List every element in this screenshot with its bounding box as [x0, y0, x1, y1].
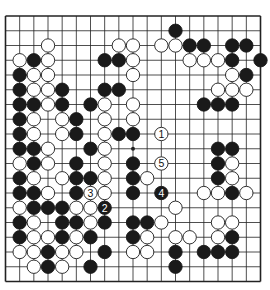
white-stone[interactable]	[27, 127, 40, 140]
white-stone[interactable]	[225, 68, 238, 81]
black-stone[interactable]	[112, 54, 125, 67]
black-stone[interactable]	[211, 172, 224, 185]
black-stone[interactable]	[27, 142, 40, 155]
black-stone[interactable]	[225, 186, 238, 199]
white-stone[interactable]	[98, 157, 111, 170]
white-stone[interactable]	[55, 260, 68, 273]
black-stone[interactable]	[13, 186, 26, 199]
white-stone[interactable]	[55, 113, 68, 126]
white-stone[interactable]	[41, 157, 54, 170]
black-stone[interactable]	[27, 98, 40, 111]
white-stone[interactable]	[126, 54, 139, 67]
black-stone[interactable]	[225, 245, 238, 258]
black-stone[interactable]	[13, 68, 26, 81]
black-stone[interactable]	[27, 186, 40, 199]
black-stone[interactable]	[84, 98, 97, 111]
black-stone[interactable]	[254, 54, 267, 67]
white-stone[interactable]	[169, 201, 182, 214]
black-stone[interactable]	[55, 201, 68, 214]
black-stone[interactable]	[211, 142, 224, 155]
white-stone[interactable]	[13, 201, 26, 214]
white-stone[interactable]	[41, 39, 54, 52]
black-stone[interactable]	[197, 98, 210, 111]
black-stone[interactable]	[183, 39, 196, 52]
black-stone[interactable]	[84, 231, 97, 244]
black-stone[interactable]	[225, 142, 238, 155]
white-stone[interactable]	[70, 201, 83, 214]
black-stone[interactable]	[126, 127, 139, 140]
white-stone[interactable]	[211, 216, 224, 229]
black-stone[interactable]	[112, 127, 125, 140]
go-board[interactable]: 15342	[0, 0, 270, 290]
white-stone[interactable]	[211, 83, 224, 96]
white-stone[interactable]	[70, 245, 83, 258]
white-stone[interactable]	[240, 186, 253, 199]
black-stone[interactable]	[169, 24, 182, 37]
white-stone[interactable]	[41, 54, 54, 67]
black-stone[interactable]	[225, 98, 238, 111]
white-stone[interactable]	[126, 245, 139, 258]
black-stone[interactable]	[126, 157, 139, 170]
black-stone[interactable]	[140, 216, 153, 229]
numbered-stone-4[interactable]: 4	[155, 186, 168, 199]
white-stone[interactable]	[41, 186, 54, 199]
white-stone[interactable]	[155, 39, 168, 52]
black-stone[interactable]	[41, 245, 54, 258]
black-stone[interactable]	[211, 245, 224, 258]
black-stone[interactable]	[13, 127, 26, 140]
black-stone[interactable]	[240, 39, 253, 52]
black-stone[interactable]	[55, 98, 68, 111]
numbered-stone-5[interactable]: 5	[155, 157, 168, 170]
black-stone[interactable]	[13, 98, 26, 111]
black-stone[interactable]	[70, 172, 83, 185]
black-stone[interactable]	[126, 216, 139, 229]
black-stone[interactable]	[70, 216, 83, 229]
white-stone[interactable]	[140, 245, 153, 258]
white-stone[interactable]	[211, 54, 224, 67]
white-stone[interactable]	[27, 172, 40, 185]
white-stone[interactable]	[41, 83, 54, 96]
white-stone[interactable]	[41, 98, 54, 111]
black-stone[interactable]	[126, 172, 139, 185]
black-stone[interactable]	[84, 142, 97, 155]
black-stone[interactable]	[126, 231, 139, 244]
white-stone[interactable]	[70, 231, 83, 244]
black-stone[interactable]	[70, 127, 83, 140]
white-stone[interactable]	[84, 201, 97, 214]
black-stone[interactable]	[225, 231, 238, 244]
black-stone[interactable]	[211, 98, 224, 111]
white-stone[interactable]	[27, 231, 40, 244]
black-stone[interactable]	[240, 68, 253, 81]
white-stone[interactable]	[169, 39, 182, 52]
black-stone[interactable]	[13, 113, 26, 126]
white-stone[interactable]	[225, 216, 238, 229]
numbered-stone-3[interactable]: 3	[84, 186, 97, 199]
white-stone[interactable]	[13, 157, 26, 170]
black-stone[interactable]	[169, 260, 182, 273]
white-stone[interactable]	[13, 54, 26, 67]
black-stone[interactable]	[169, 245, 182, 258]
white-stone[interactable]	[126, 39, 139, 52]
white-stone[interactable]	[98, 172, 111, 185]
black-stone[interactable]	[55, 231, 68, 244]
black-stone[interactable]	[70, 157, 83, 170]
black-stone[interactable]	[13, 83, 26, 96]
black-stone[interactable]	[98, 245, 111, 258]
black-stone[interactable]	[197, 39, 210, 52]
black-stone[interactable]	[225, 54, 238, 67]
white-stone[interactable]	[169, 231, 182, 244]
black-stone[interactable]	[13, 231, 26, 244]
white-stone[interactable]	[98, 98, 111, 111]
black-stone[interactable]	[13, 172, 26, 185]
black-stone[interactable]	[70, 186, 83, 199]
white-stone[interactable]	[55, 127, 68, 140]
black-stone[interactable]	[197, 245, 210, 258]
black-stone[interactable]	[84, 172, 97, 185]
white-stone[interactable]	[55, 245, 68, 258]
black-stone[interactable]	[27, 201, 40, 214]
white-stone[interactable]	[225, 157, 238, 170]
white-stone[interactable]	[27, 113, 40, 126]
white-stone[interactable]	[112, 39, 125, 52]
white-stone[interactable]	[240, 83, 253, 96]
black-stone[interactable]	[13, 142, 26, 155]
